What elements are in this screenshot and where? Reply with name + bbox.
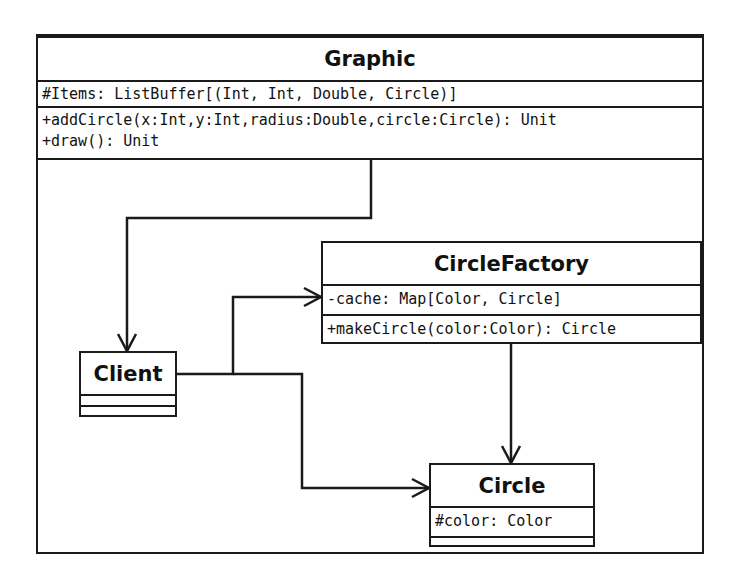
attribute-cache: -cache: Map[Color, Circle] [327,286,700,313]
class-circlefactory-attributes: -cache: Map[Color, Circle] [323,284,700,314]
class-circle-attributes: #color: Color [431,506,593,536]
class-client-operations [81,405,175,417]
operation-addcircle: +addCircle(x:Int,y:Int,radius:Double,cir… [42,110,702,131]
class-graphic-operations: +addCircle(x:Int,y:Int,radius:Double,cir… [38,106,702,158]
class-circlefactory-operations: +makeCircle(color:Color): Circle [323,314,700,344]
class-graphic-attributes: #Items: ListBuffer[(Int, Int, Double, Ci… [38,80,702,106]
class-client[interactable]: Client [79,351,177,417]
attribute-color: #color: Color [435,508,593,535]
operation-makecircle: +makeCircle(color:Color): Circle [327,316,700,342]
class-circle-name: Circle [431,465,593,506]
class-client-attributes [81,394,175,405]
diagram-frame-top-edge [36,34,704,38]
class-circle[interactable]: Circle #color: Color [429,463,595,547]
class-circlefactory-name: CircleFactory [323,243,700,284]
class-circlefactory[interactable]: CircleFactory -cache: Map[Color, Circle]… [321,241,702,344]
class-graphic[interactable]: Graphic #Items: ListBuffer[(Int, Int, Do… [36,36,704,160]
association-client-to-circle [233,374,429,488]
class-client-name: Client [81,353,175,394]
operation-draw: +draw(): Unit [42,131,702,152]
class-circle-operations [431,536,593,545]
class-graphic-name: Graphic [38,38,702,80]
association-client-to-circlefactory [176,297,321,374]
attribute-items: #Items: ListBuffer[(Int, Int, Double, Ci… [42,82,702,106]
